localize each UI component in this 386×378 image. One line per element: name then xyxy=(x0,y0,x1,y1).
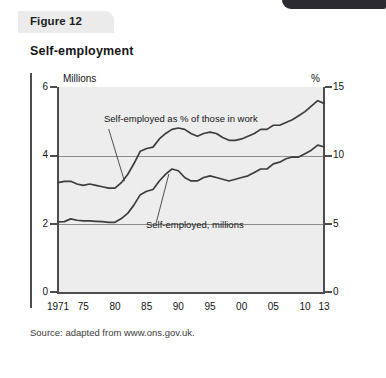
x-label-10: 10 xyxy=(299,301,310,312)
figure-card: Figure 12 Self-employment Millions % 6 4… xyxy=(18,11,368,363)
top-accent-band xyxy=(282,0,386,9)
x-label-13: 13 xyxy=(318,301,329,312)
annotation-leader-percent xyxy=(109,129,125,181)
series-label-percent: Self-employed as % of those in work xyxy=(104,113,258,124)
x-label-1971: 1971 xyxy=(47,301,69,312)
x-label-90: 90 xyxy=(173,301,184,312)
x-label-75: 75 xyxy=(78,301,89,312)
series-lines xyxy=(30,73,360,313)
figure-number-label: Figure 12 xyxy=(30,15,82,27)
x-label-05: 05 xyxy=(268,301,279,312)
x-label-00: 00 xyxy=(236,301,247,312)
figure-title: Self-employment xyxy=(30,44,134,58)
x-label-95: 95 xyxy=(204,301,215,312)
line-self-employed-millions xyxy=(58,145,324,222)
x-label-80: 80 xyxy=(109,301,120,312)
chart-area: Millions % 6 4 2 0 15 10 5 0 xyxy=(30,73,360,313)
x-label-85: 85 xyxy=(141,301,152,312)
source-note: Source: adapted from www.ons.gov.uk. xyxy=(30,327,195,338)
series-label-millions: Self-employed, millions xyxy=(146,219,244,230)
